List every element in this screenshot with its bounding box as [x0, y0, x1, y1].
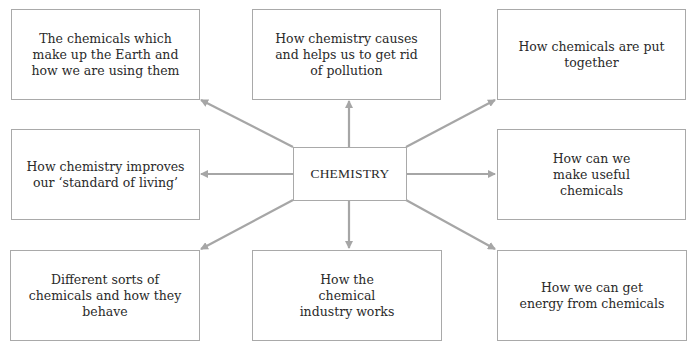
topic-label: How can we make useful chemicals — [538, 151, 645, 199]
topic-label: Different sorts of chemicals and how the… — [19, 272, 191, 320]
topic-box-sorts-of-chemicals: Different sorts of chemicals and how the… — [10, 250, 200, 341]
topic-box-earth-chemicals: The chemicals which make up the Earth an… — [11, 9, 200, 100]
topic-label: How chemicals are put together — [502, 39, 681, 71]
topic-box-useful-chemicals: How can we make useful chemicals — [497, 129, 686, 220]
arrow-top-left — [201, 100, 293, 147]
central-topic-box: CHEMISTRY — [293, 147, 407, 201]
arrow-top-right — [406, 100, 495, 147]
topic-box-chemical-structure: How chemicals are put together — [497, 9, 686, 100]
topic-label: How chemistry causes and helps us to get… — [275, 31, 418, 79]
topic-box-standard-of-living: How chemistry improves our ‘standard of … — [11, 129, 200, 220]
topic-label: The chemicals which make up the Earth an… — [22, 31, 189, 79]
topic-box-energy: How we can get energy from chemicals — [497, 250, 687, 341]
central-topic-label: CHEMISTRY — [310, 166, 389, 182]
topic-label: How the chemical industry works — [298, 272, 396, 320]
topic-box-chemical-industry: How the chemical industry works — [252, 250, 442, 341]
topic-label: How we can get energy from chemicals — [518, 280, 666, 312]
topic-box-pollution: How chemistry causes and helps us to get… — [252, 9, 441, 100]
topic-label: How chemistry improves our ‘standard of … — [22, 159, 189, 191]
arrow-bottom-right — [406, 200, 495, 249]
arrow-bottom-left — [201, 200, 293, 249]
